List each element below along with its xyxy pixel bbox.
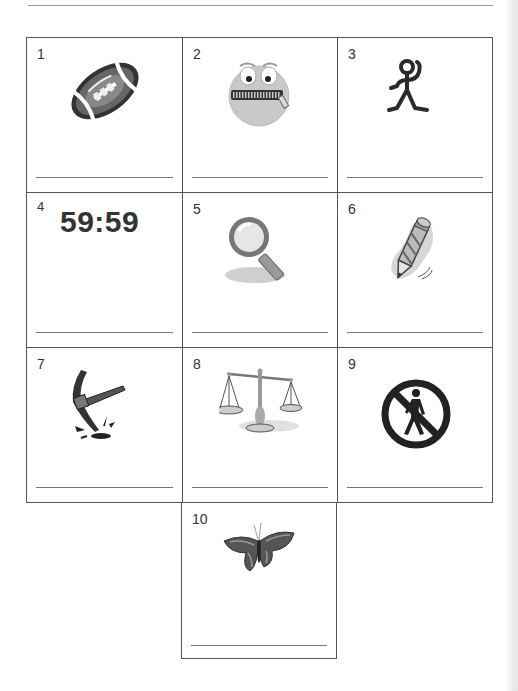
pickaxe-icon bbox=[59, 366, 129, 446]
answer-line[interactable] bbox=[347, 177, 483, 178]
cell-number: 2 bbox=[193, 46, 201, 62]
butterfly-icon bbox=[220, 523, 298, 575]
no-pedestrian-sign-icon bbox=[380, 378, 452, 450]
cell-number: 10 bbox=[192, 511, 208, 527]
balance-scale-icon bbox=[219, 368, 309, 443]
answer-line[interactable] bbox=[192, 332, 328, 333]
answer-line[interactable] bbox=[192, 487, 328, 488]
answer-line[interactable] bbox=[347, 332, 483, 333]
cell-5: 5 bbox=[183, 193, 338, 348]
cell-3: 3 bbox=[338, 38, 493, 193]
cell-4: 4 59:59 bbox=[27, 193, 183, 348]
answer-line[interactable] bbox=[36, 487, 173, 488]
cell-6: 6 bbox=[338, 193, 493, 348]
answer-line[interactable] bbox=[191, 645, 327, 646]
cell-number: 3 bbox=[348, 46, 356, 62]
cell-number: 5 bbox=[193, 201, 201, 217]
cell-1: 1 bbox=[27, 38, 183, 193]
cell-8: 8 bbox=[183, 348, 338, 503]
stick-figure-icon bbox=[383, 58, 443, 128]
answer-line[interactable] bbox=[36, 332, 173, 333]
magnifying-glass-icon bbox=[225, 215, 300, 290]
answer-line[interactable] bbox=[347, 487, 483, 488]
digital-time-text: 59:59 bbox=[60, 205, 139, 239]
cell-number: 7 bbox=[37, 356, 45, 372]
top-rule bbox=[28, 5, 493, 6]
football-icon bbox=[65, 56, 145, 126]
cell-10: 10 bbox=[181, 502, 337, 659]
cell-9: 9 bbox=[338, 348, 493, 503]
cell-number: 4 bbox=[37, 199, 44, 214]
cell-2: 2 bbox=[183, 38, 338, 193]
cell-number: 8 bbox=[193, 356, 201, 372]
answer-line[interactable] bbox=[36, 177, 173, 178]
picture-grid: 1 2 bbox=[26, 37, 493, 503]
cell-number: 1 bbox=[37, 46, 45, 62]
answer-line[interactable] bbox=[192, 177, 328, 178]
cell-7: 7 bbox=[27, 348, 183, 503]
zipped-mouth-face-icon bbox=[225, 56, 300, 128]
cell-number: 9 bbox=[348, 356, 356, 372]
pencil-writing-icon bbox=[382, 215, 452, 290]
page-edge-shadow bbox=[505, 0, 518, 691]
cell-number: 6 bbox=[348, 201, 356, 217]
